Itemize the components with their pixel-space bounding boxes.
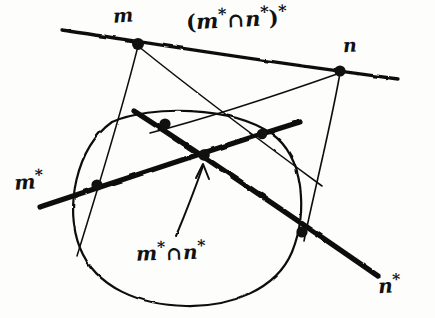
label-line-n-star: n* — [377, 271, 401, 296]
contact-upper-left-dot — [159, 118, 170, 129]
point-n-dot — [334, 65, 345, 76]
center-n-base: n — [183, 240, 198, 264]
label-point-n: n — [343, 36, 358, 56]
point-m-dot — [132, 38, 144, 50]
label-center-intersection: m*∩n* — [136, 238, 206, 264]
m-star-base: m — [13, 169, 36, 194]
figure-canvas — [0, 0, 435, 318]
n-star-base: n — [377, 273, 393, 298]
contact-lower-right-dot — [296, 226, 307, 237]
center-cap-icon: ∩ — [165, 241, 184, 264]
intersection-m-base: m — [195, 8, 219, 34]
label-intersection-dual: (m*∩n*)* — [185, 3, 287, 33]
intersection-outer-star-icon: * — [278, 1, 287, 20]
pole-center-dot — [198, 149, 210, 161]
label-point-m-text: m — [112, 3, 134, 26]
n-star-asterisk-icon: * — [392, 269, 401, 288]
annotation-arrow — [176, 164, 209, 236]
hand-drawn-figure: m (m*∩n*)* n m* n* m*∩n* — [0, 0, 435, 318]
m-star-asterisk-icon: * — [34, 165, 43, 185]
center-m-base: m — [136, 241, 158, 266]
contact-upper-right-dot — [257, 129, 267, 139]
center-n-star-icon: * — [197, 236, 206, 255]
label-point-n-text: n — [342, 34, 357, 57]
tangent-n-right — [304, 73, 340, 241]
contact-lower-left-dot — [91, 179, 102, 190]
label-line-m-star: m* — [13, 167, 44, 193]
label-point-m: m — [112, 5, 133, 25]
tangent-n-left — [150, 73, 340, 133]
intersection-cap-icon: ∩ — [226, 8, 246, 33]
